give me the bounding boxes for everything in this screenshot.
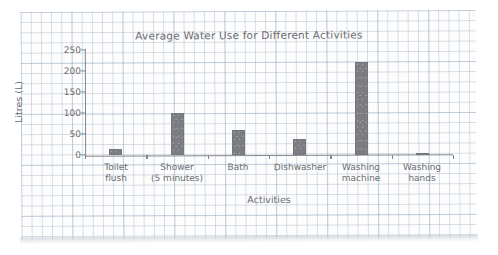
- screenshot-root: Average Water Use for Different Activiti…: [0, 0, 498, 255]
- graph-paper-major-grid: [21, 10, 477, 240]
- graph-paper-sheet: [21, 10, 477, 240]
